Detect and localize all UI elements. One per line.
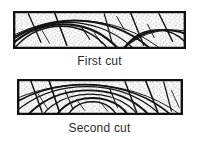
plank-second-cut-drawing <box>17 79 183 115</box>
plank-second-cut <box>17 79 183 115</box>
plank-first-cut <box>13 11 186 49</box>
caption-second-cut: Second cut <box>0 121 199 135</box>
wood-cut-diagram: First cut <box>0 0 199 142</box>
plank-first-cut-drawing <box>13 11 186 49</box>
caption-first-cut: First cut <box>0 54 199 68</box>
